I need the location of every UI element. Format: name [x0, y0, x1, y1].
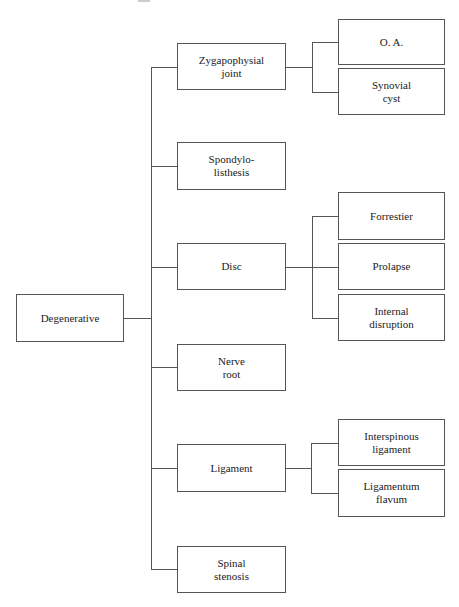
connector-flavum [311, 493, 338, 494]
node-nerve-root: Nerve root [177, 344, 286, 391]
node-synovial-cyst: Synovial cyst [338, 68, 445, 115]
connector-zyg-out [286, 67, 312, 68]
page-edge-artifact [138, 0, 150, 2]
connector-zyg-bracket [312, 42, 313, 93]
connector-oa [312, 42, 338, 43]
connector-nerve-root [151, 367, 177, 368]
node-degenerative: Degenerative [16, 294, 124, 342]
node-ligamentum-flavum: Ligamentum flavum [338, 469, 445, 517]
node-internal-disruption: Internal disruption [338, 294, 445, 341]
connector-internal [312, 318, 338, 319]
connector-interspinous [311, 443, 338, 444]
connector-spinal-stenosis [151, 569, 177, 570]
connector-forrestier [312, 216, 338, 217]
node-disc: Disc [177, 243, 286, 290]
connector-lig-out [286, 468, 311, 469]
node-spinal-stenosis: Spinal stenosis [177, 546, 286, 593]
connector-root [124, 318, 151, 319]
node-ligament: Ligament [177, 444, 286, 492]
connector-ligament [151, 468, 177, 469]
node-spondylolisthesis: Spondylo- listhesis [177, 142, 286, 190]
connector-lig-bracket [311, 443, 312, 494]
node-oa: O. A. [338, 19, 445, 65]
node-prolapse: Prolapse [338, 243, 445, 290]
node-zygapophysial-joint: Zygapophysial joint [177, 43, 286, 90]
connector-disc [151, 267, 177, 268]
node-forrestier: Forrestier [338, 192, 445, 240]
connector-synovial [312, 92, 338, 93]
node-interspinous-ligament: Interspinous ligament [338, 419, 445, 466]
connector-zygapophysial [151, 67, 177, 68]
connector-disc-bracket [312, 216, 313, 319]
connector-trunk [151, 67, 152, 570]
connector-spondylolisthesis [151, 166, 177, 167]
